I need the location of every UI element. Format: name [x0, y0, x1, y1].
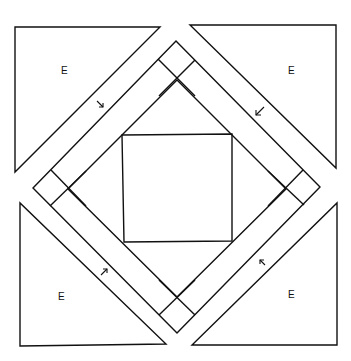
corner-triangle-top-left: [15, 27, 160, 172]
arrow-up-left-icon: [260, 260, 265, 265]
corner-triangle-bottom-right: [192, 203, 337, 345]
triangle-label-top-left: E: [61, 65, 68, 76]
triangle-label-top-right: E: [288, 65, 295, 76]
triangle-label-bottom-right: E: [288, 289, 295, 300]
arrow-down-left-icon: [256, 107, 264, 115]
quilt-block-diagram: E E E E: [0, 0, 351, 361]
corner-square-lines: [50, 59, 304, 315]
arrow-up-right-icon: [101, 269, 107, 275]
inner-diamond: [68, 80, 286, 297]
triangle-label-bottom-left: E: [58, 291, 65, 302]
corner-triangle-bottom-left: [20, 203, 166, 346]
outer-diamond: [33, 41, 320, 333]
corner-triangle-top-right: [190, 25, 336, 168]
center-square: [122, 134, 232, 242]
arrow-down-right-icon: [97, 101, 103, 107]
